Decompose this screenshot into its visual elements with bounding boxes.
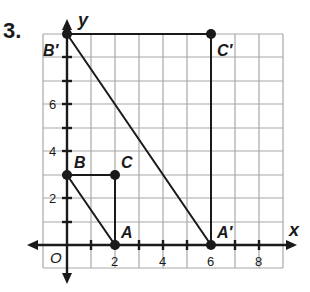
y-axis-label: y bbox=[77, 10, 89, 30]
x-tick-label: 6 bbox=[207, 254, 214, 269]
x-tick-label: 8 bbox=[255, 254, 262, 269]
y-tick-label: 6 bbox=[49, 97, 56, 112]
y-tick-label: 4 bbox=[49, 144, 56, 159]
point-a-prime bbox=[206, 240, 216, 250]
point-c bbox=[110, 170, 120, 180]
point-b bbox=[62, 170, 72, 180]
x-axis-label: x bbox=[288, 220, 300, 240]
label-c-prime: C′ bbox=[217, 42, 234, 59]
x-tick-label: 2 bbox=[111, 254, 118, 269]
label-a: A bbox=[120, 224, 133, 241]
point-c-prime bbox=[206, 29, 216, 39]
point-b-prime bbox=[62, 29, 72, 39]
point-a bbox=[110, 240, 120, 250]
label-b: B bbox=[74, 154, 86, 171]
origin-label: O bbox=[50, 249, 62, 266]
coordinate-plane: y x O 2 4 6 8 2 4 6 A B C A′ B′ C′ bbox=[0, 0, 310, 292]
y-tick-label: 2 bbox=[49, 191, 56, 206]
label-b-prime: B′ bbox=[43, 42, 60, 59]
label-c: C bbox=[121, 154, 133, 171]
grid bbox=[43, 34, 283, 268]
label-a-prime: A′ bbox=[216, 224, 234, 241]
x-tick-label: 4 bbox=[159, 254, 166, 269]
